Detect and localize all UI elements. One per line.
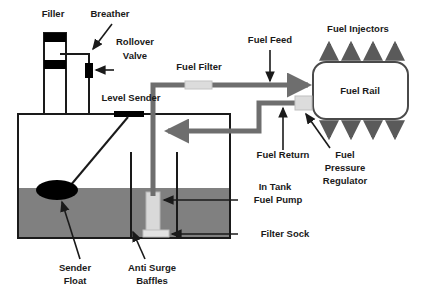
level-sender-bar [114, 111, 144, 117]
fuel-rail: Fuel Rail [313, 62, 408, 119]
label-fuel-injectors: Fuel Injectors [327, 23, 389, 34]
label-rollover: Rollover [116, 36, 154, 47]
in-tank-fuel-pump [146, 192, 160, 234]
label-sender-float-1: Sender [59, 262, 92, 273]
label-sender-float-2: Float [64, 275, 88, 286]
filler-neck [44, 33, 66, 114]
label-fuel-feed: Fuel Feed [248, 34, 293, 45]
fuel-system-diagram: Fuel Rail Filler Breather Rollover Valve… [0, 0, 422, 307]
sender-float [36, 180, 78, 200]
label-fuel-pressure-2: Pressure [325, 162, 366, 173]
label-level-sender: Level Sender [101, 92, 160, 103]
filler-band [44, 60, 66, 69]
filler-cap [44, 33, 66, 42]
rollover-valve [85, 63, 93, 78]
label-fuel-pressure-3: Regulator [323, 175, 368, 186]
label-valve: Valve [123, 50, 147, 61]
fuel-filter-block [185, 81, 212, 89]
label-breather: Breather [90, 8, 129, 19]
label-anti-surge-1: Anti Surge [128, 262, 176, 273]
fuel-rail-label: Fuel Rail [340, 85, 380, 96]
label-fuel-return: Fuel Return [257, 149, 310, 160]
fuel-injectors-bottom [329, 121, 395, 137]
label-anti-surge-2: Baffles [136, 275, 168, 286]
label-fuel-filter: Fuel Filter [176, 61, 222, 72]
label-fuel-pressure-1: Fuel [335, 149, 355, 160]
label-filler: Filler [42, 8, 65, 19]
fuel-injectors-top [329, 44, 395, 60]
label-filter-sock: Filter Sock [261, 228, 310, 239]
fuel-pressure-regulator [295, 96, 312, 110]
label-in-tank: In Tank [259, 181, 292, 192]
label-fuel-pump: Fuel Pump [254, 194, 303, 205]
filter-sock [143, 230, 169, 237]
leader-breather [93, 24, 112, 49]
